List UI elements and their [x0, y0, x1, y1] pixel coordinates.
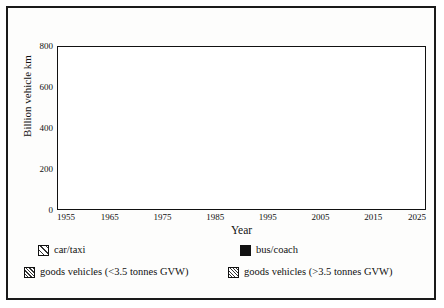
legend-label-goods-heavy: goods vehicles (>3.5 tonnes GVW)	[244, 266, 393, 278]
legend-swatch-goods-light-icon	[24, 267, 35, 278]
x-tick-label: 2015	[364, 212, 382, 222]
plot-frame	[57, 46, 426, 210]
x-axis-title: Year	[57, 224, 426, 236]
x-tick-label: 1975	[153, 212, 171, 222]
y-tick-label: 800	[40, 42, 54, 51]
figure-frame: Billion vehicle km 0200400600800	[6, 6, 436, 300]
x-tick-label: 2025	[408, 212, 426, 222]
chart-legend: car/taxi bus/coach goods vehicles (<3.5 …	[24, 244, 428, 290]
legend-swatch-goods-heavy-icon	[228, 267, 239, 278]
legend-item-car-taxi: car/taxi	[38, 244, 85, 256]
y-tick-label: 200	[40, 165, 54, 174]
legend-item-bus-coach: bus/coach	[240, 244, 298, 256]
y-tick-label: 400	[40, 124, 54, 133]
y-tick-label: 600	[40, 83, 54, 92]
legend-swatch-car-taxi-icon	[38, 245, 49, 256]
legend-swatch-bus-coach-icon	[240, 245, 251, 256]
x-tick-label: 1965	[101, 212, 119, 222]
legend-item-goods-heavy: goods vehicles (>3.5 tonnes GVW)	[228, 266, 393, 278]
x-tick-label: 1955	[57, 212, 75, 222]
legend-item-goods-light: goods vehicles (<3.5 tonnes GVW)	[24, 266, 189, 278]
legend-row-2: goods vehicles (<3.5 tonnes GVW) goods v…	[24, 266, 428, 286]
y-axis-tick-labels: 0200400600800	[22, 46, 53, 210]
legend-row-1: car/taxi bus/coach	[24, 244, 428, 264]
legend-label-goods-light: goods vehicles (<3.5 tonnes GVW)	[40, 266, 189, 278]
legend-label-car-taxi: car/taxi	[54, 244, 85, 256]
x-tick-label: 1995	[259, 212, 277, 222]
legend-label-bus-coach: bus/coach	[256, 244, 298, 256]
x-tick-label: 2005	[312, 212, 330, 222]
plot-area	[57, 46, 426, 210]
y-tick-label: 0	[49, 206, 54, 215]
x-tick-label: 1985	[206, 212, 224, 222]
